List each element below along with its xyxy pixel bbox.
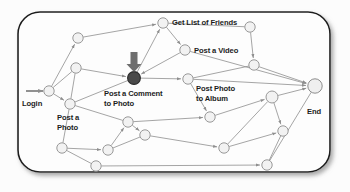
- node-mid-left[interactable]: [71, 63, 81, 73]
- node-center-lower[interactable]: [123, 117, 133, 127]
- node-right-cluster[interactable]: [266, 91, 278, 103]
- node-get-list-of-friends[interactable]: [158, 18, 168, 28]
- label-line: Post a Video: [194, 46, 238, 56]
- node-bottom-right[interactable]: [262, 160, 272, 170]
- graph-svg: [0, 0, 350, 192]
- label-line: Photo: [57, 123, 79, 133]
- diagram-canvas: LoginPost aPhotoPost a Commentto PhotoGe…: [0, 0, 350, 192]
- label-line: Post a: [57, 113, 79, 123]
- label-line: Login: [22, 99, 42, 109]
- label-post-photo-to-album: Post Phototo Album: [196, 84, 235, 104]
- label-post-a-comment-to-photo: Post a Commentto Photo: [104, 89, 163, 109]
- label-end: End: [307, 107, 321, 117]
- node-right-upper[interactable]: [249, 60, 259, 70]
- node-center-lower-2[interactable]: [140, 130, 150, 140]
- label-post-a-video: Post a Video: [194, 46, 238, 56]
- node-right-cluster-2[interactable]: [278, 126, 288, 136]
- label-line: Post a Comment: [104, 89, 163, 99]
- node-lower-left[interactable]: [57, 143, 67, 153]
- node-post-a-video[interactable]: [180, 45, 190, 55]
- node-mid-lower-right[interactable]: [205, 112, 215, 122]
- node-post-a-photo[interactable]: [65, 99, 75, 109]
- label-line: to Album: [196, 94, 235, 104]
- label-post-a-photo: Post aPhoto: [57, 113, 79, 133]
- node-bottom-center[interactable]: [219, 143, 229, 153]
- label-line: End: [307, 107, 321, 117]
- label-line: to Photo: [104, 99, 163, 109]
- node-top-right[interactable]: [245, 22, 255, 32]
- node-end[interactable]: [308, 79, 322, 93]
- label-login: Login: [22, 99, 42, 109]
- label-line: Get List of Friends: [172, 18, 237, 28]
- node-lower-left-2[interactable]: [103, 145, 113, 155]
- node-bottom-left[interactable]: [91, 161, 101, 171]
- node-post-a-comment-to-photo[interactable]: [128, 72, 141, 85]
- node-upper-left[interactable]: [73, 33, 83, 43]
- node-login[interactable]: [44, 86, 54, 96]
- label-get-list-of-friends: Get List of Friends: [172, 18, 237, 28]
- label-line: Post Photo: [196, 84, 235, 94]
- node-post-photo-to-album[interactable]: [183, 74, 193, 84]
